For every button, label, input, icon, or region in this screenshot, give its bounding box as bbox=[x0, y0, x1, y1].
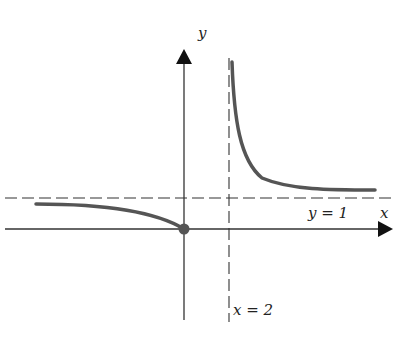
curve-right-branch bbox=[232, 62, 375, 190]
graph: y x y = 1 x = 2 bbox=[0, 0, 407, 345]
x-axis-arrow-icon bbox=[378, 221, 393, 237]
origin-point bbox=[179, 224, 190, 235]
y-axis-label: y bbox=[197, 24, 207, 42]
curve-left-branch bbox=[36, 204, 184, 229]
vertical-asymptote-label: x = 2 bbox=[233, 301, 273, 319]
horizontal-asymptote-label: y = 1 bbox=[307, 204, 348, 222]
x-axis-label: x bbox=[380, 204, 389, 222]
y-axis-arrow-icon bbox=[176, 49, 192, 64]
